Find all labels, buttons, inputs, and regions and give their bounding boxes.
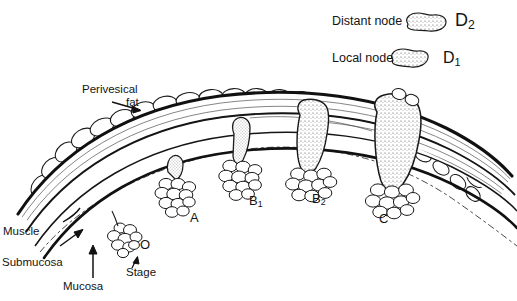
label-stage-B1: B1 — [249, 194, 263, 209]
legend-node-local-icon — [392, 49, 428, 67]
label-muscle: Muscle — [3, 225, 39, 237]
label-stage-C: C — [379, 212, 388, 226]
label-stage-B2-sub: 2 — [321, 197, 326, 207]
label-stage-B2: B2 — [312, 192, 326, 207]
label-stage-B2-letter: B — [312, 191, 321, 206]
label-stage-caption: Stage — [126, 266, 156, 278]
legend-code-d1: D1 — [443, 50, 461, 68]
tumor-stage-B1 — [219, 117, 262, 200]
label-mucosa: Mucosa — [63, 280, 103, 292]
label-perivesical-fat-line2: fat — [126, 96, 139, 108]
label-perivesical-fat-line1: Perivesical — [82, 83, 138, 95]
label-stage-marker-O: O — [140, 238, 150, 252]
legend-label-local-node: Local node — [332, 52, 393, 65]
tumor-stage-O — [108, 211, 143, 258]
legend-label-distant-node: Distant node — [332, 15, 402, 28]
legend-code-d1-sub: 1 — [455, 56, 461, 68]
label-submucosa: Submucosa — [2, 256, 63, 268]
tumor-stage-A — [155, 155, 196, 217]
legend-node-distant-icon — [407, 13, 446, 31]
legend-code-d1-letter: D — [443, 49, 455, 66]
legend-code-d2-sub: 2 — [468, 18, 475, 32]
label-stage-B1-letter: B — [249, 193, 258, 208]
staging-diagram-figure: Distant node D2 Local node D1 Perivesica… — [0, 0, 517, 301]
legend-code-d2-letter: D — [455, 10, 468, 30]
bowel-wall-illustration — [0, 0, 517, 301]
legend-code-d2: D2 — [455, 11, 475, 32]
label-stage-A: A — [190, 211, 199, 225]
label-stage-B1-sub: 1 — [258, 199, 263, 209]
